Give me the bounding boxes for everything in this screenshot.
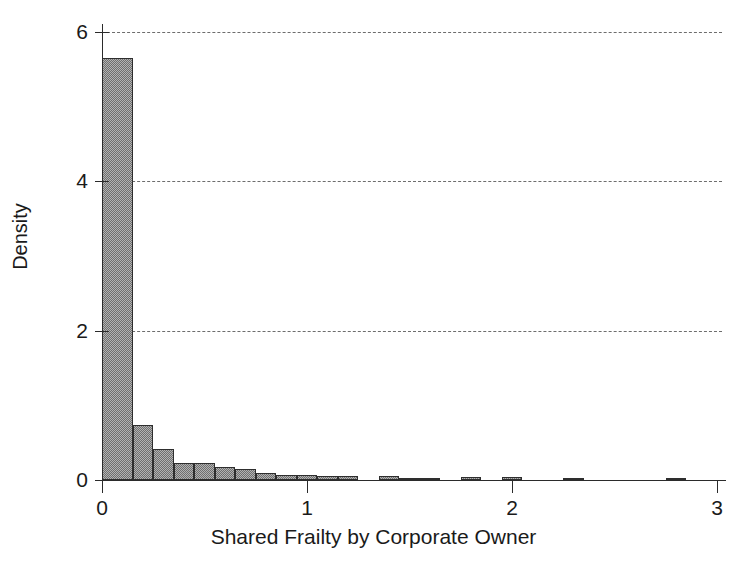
histogram-bar: [256, 473, 277, 480]
x-tick-label-2: 2: [492, 497, 532, 518]
y-tick-label-2: 2: [48, 320, 88, 341]
y-axis-line: [102, 24, 103, 482]
histogram-figure: 0246 0123 Density Shared Frailty by Corp…: [0, 0, 747, 567]
y-tick-4: [95, 181, 109, 182]
x-tick-2: [512, 480, 513, 493]
y-axis-title: Density: [9, 137, 32, 337]
x-tick-1: [307, 480, 308, 493]
y-tick-2: [95, 331, 109, 332]
histogram-bars: [102, 28, 722, 480]
plot-area: [102, 28, 722, 480]
x-axis-title: Shared Frailty by Corporate Owner: [0, 525, 747, 549]
x-tick-3: [717, 480, 718, 493]
x-tick-label-3: 3: [697, 497, 737, 518]
y-tick-6: [95, 32, 109, 33]
x-axis-line: [102, 480, 726, 481]
histogram-bar: [194, 463, 215, 480]
x-tick-label-0: 0: [82, 497, 122, 518]
histogram-bar: [174, 463, 195, 480]
x-tick-label-1: 1: [287, 497, 327, 518]
y-tick-label-6: 6: [48, 21, 88, 42]
histogram-bar: [133, 425, 154, 480]
x-tick-0: [102, 480, 103, 493]
histogram-bar: [102, 58, 133, 480]
histogram-bar: [235, 469, 256, 480]
histogram-bar: [215, 467, 236, 480]
y-tick-label-4: 4: [48, 170, 88, 191]
histogram-bar: [153, 449, 174, 480]
y-tick-label-0: 0: [48, 469, 88, 490]
